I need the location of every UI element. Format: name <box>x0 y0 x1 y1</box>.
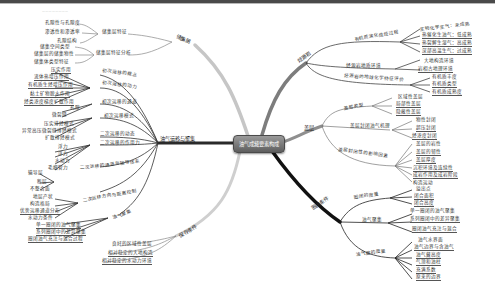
migration-leaf[interactable]: 浮力 <box>58 151 68 157</box>
reservoir-leaf[interactable]: 储集空间类型 <box>40 44 70 50</box>
caprock-leaf[interactable]: 物性封闭 <box>416 117 436 123</box>
migration-leaf[interactable]: 微裂缝 <box>52 112 67 118</box>
reservoir-leaf[interactable]: 储集体类型特征 <box>34 59 69 65</box>
trap-leaf[interactable]: 圈闭油气充注与混合 <box>412 226 457 233</box>
migration-leaf[interactable]: 输导层 <box>28 170 43 176</box>
trap-leaf[interactable]: 系列圈闭中的差异聚集 <box>410 216 460 223</box>
migration-leaf[interactable]: 水动力 <box>55 158 70 164</box>
migration-leaf[interactable]: 毛细管力 <box>48 165 68 171</box>
caprock-leaf[interactable]: 隐蔽性盖层 <box>396 109 421 116</box>
reservoir-leaf[interactable]: 储集层的储集物性 <box>34 51 74 57</box>
caprock-leaf[interactable]: 盖层的岩性 <box>416 141 441 147</box>
migration-leaf[interactable]: 圈闭油气充注与混合过程 <box>28 236 83 243</box>
migration-leaf[interactable]: 压实排烃模式 <box>44 121 74 127</box>
migration-leaf[interactable]: 浮力 <box>58 144 68 150</box>
migration-group[interactable]: 二次运移的动态 <box>100 131 135 137</box>
migration-group[interactable]: 初次运移模式 <box>104 113 134 119</box>
reservoir-group[interactable]: 储集层特征分析 <box>96 50 131 56</box>
caprock-leaf[interactable]: 区域性盖层 <box>398 94 423 100</box>
reservoir-group[interactable]: 储集层特征 <box>102 29 127 35</box>
caprock-leaf[interactable]: 盖层的韧性 <box>416 149 441 156</box>
source-leaf[interactable]: 有机质类型 <box>432 81 457 88</box>
caprock-leaf[interactable]: 沉积环境及连续性 <box>413 165 453 172</box>
preservation-leaf[interactable]: 相对稳定的水动力环境 <box>102 258 152 265</box>
migration-group[interactable]: 二次运移的作用力 <box>100 140 140 146</box>
mind-map-canvas: ———————— <box>0 0 495 291</box>
caprock-leaf[interactable]: 盖层厚度 <box>416 157 436 164</box>
migration-leaf[interactable]: 烃类浓度梯度扩散作用 <box>24 99 74 106</box>
caprock-leaf[interactable]: 超压封闭 <box>416 125 436 132</box>
trap-group[interactable]: 油气聚集 <box>362 217 382 223</box>
source-leaf[interactable]: 有机质成熟度 <box>432 89 462 96</box>
migration-leaf[interactable]: 流体热增压作用 <box>34 74 69 81</box>
center-topic[interactable]: 油气成藏要素构成 <box>233 135 285 153</box>
migration-leaf[interactable]: 异常高压微裂缝排烃模式 <box>22 128 77 134</box>
trap-leaf[interactable]: 闭合高度 <box>414 200 434 207</box>
preservation-leaf[interactable]: 良好的区域性盖层 <box>112 241 152 247</box>
reservoir-leaf[interactable]: 孔隙性与孔隙度 <box>45 20 80 26</box>
source-leaf[interactable]: 热催化生油气：低成熟 <box>422 32 472 39</box>
preservation-leaf[interactable]: 相对稳定的大地构造 <box>108 250 153 257</box>
migration-leaf[interactable]: 黏土矿物脱水作用 <box>30 91 70 98</box>
migration-leaf[interactable]: 孔隙 <box>70 105 80 111</box>
migration-leaf[interactable]: 压实作用 <box>51 67 71 74</box>
trap-leaf[interactable]: 气顶和油柱 <box>416 259 441 266</box>
migration-leaf[interactable]: 系列圈闭中的差异聚集 <box>36 229 86 236</box>
source-leaf[interactable]: 岩相古地理环境 <box>418 66 453 73</box>
trap-leaf[interactable]: 溢出点 <box>416 186 431 192</box>
trap-leaf[interactable]: 充满系数 <box>416 267 436 274</box>
migration-leaf[interactable]: 扩散排烃模式 <box>45 135 75 141</box>
source-group[interactable]: 烃源岩地质环境 <box>346 63 381 69</box>
trap-leaf[interactable]: 油气藏高度 <box>416 252 441 259</box>
migration-leaf[interactable]: 不整合面 <box>30 186 50 192</box>
reservoir-leaf[interactable]: 渗透性和渗透率 <box>45 29 80 35</box>
caprock-group[interactable]: 盖层封闭油气机理 <box>350 123 390 129</box>
migration-leaf[interactable]: 优势运移通道分布 <box>20 208 60 215</box>
source-leaf[interactable]: 大地构造环境 <box>424 58 454 64</box>
branch-caprock[interactable]: 盖层 <box>304 125 314 131</box>
trap-leaf[interactable]: 油气边界与含油气 <box>414 244 454 251</box>
migration-leaf[interactable]: 有机质生烃增压作用 <box>28 82 73 89</box>
migration-group[interactable]: 初次运移的通道 <box>102 99 137 105</box>
source-leaf[interactable]: 热裂解生湿气：高成熟 <box>422 40 472 47</box>
trap-leaf[interactable]: 单一圈闭的油气聚集 <box>410 208 455 214</box>
trap-leaf[interactable]: 闭合面积 <box>414 193 434 200</box>
caprock-leaf[interactable]: 烃浓度封闭 <box>412 133 437 140</box>
migration-leaf[interactable]: 水动力条件 <box>28 215 53 221</box>
source-leaf[interactable]: 深部高温生气：过成熟 <box>422 48 472 55</box>
migration-leaf[interactable]: 地层产状 <box>33 194 53 200</box>
caprock-leaf[interactable]: 局部性盖层 <box>396 101 421 108</box>
caprock-leaf[interactable]: 成岩作用及成岩阶段 <box>413 172 458 179</box>
branch-migration[interactable]: 油气运移与聚集 <box>160 136 195 142</box>
migration-leaf[interactable]: 单一圈闭的油气聚集 <box>36 222 81 229</box>
source-leaf[interactable]: 有机质丰度 <box>432 74 457 80</box>
migration-leaf[interactable]: 构造格局 <box>30 201 50 207</box>
migration-leaf[interactable]: 断层 <box>37 179 47 185</box>
trap-leaf[interactable]: 油气水界面 <box>418 237 443 243</box>
trap-leaf[interactable]: 原来的边界 <box>416 274 441 281</box>
